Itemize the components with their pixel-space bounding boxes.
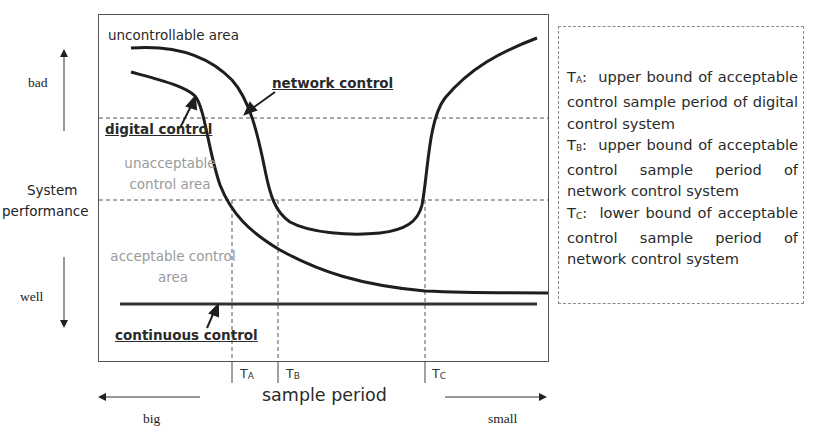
y-axis-well-label: well [20,290,43,304]
tick-label-tc: TC [432,368,446,381]
region-uncontrollable-label: uncontrollable area [108,29,239,43]
arrow-right-small [445,393,547,401]
digital-control-label: digital control [105,123,212,137]
region-unacceptable-label-line1: unacceptable [110,157,230,171]
y-axis-label-line1: System [27,184,77,198]
legend-text: TA: upper bound of acceptable control sa… [567,66,798,270]
arrow-left-big [98,393,200,401]
region-acceptable-label-line2: area [108,271,238,285]
y-axis-bad-label: bad [28,76,48,90]
arrow-down-well [60,257,68,328]
arrow-up-bad [60,49,68,131]
arrow-network-control [245,92,275,114]
continuous-control-label: continuous control [115,329,258,343]
region-acceptable-label-line1: acceptable control [108,250,238,264]
tick-label-ta: TA [240,368,254,381]
network-control-label: network control [272,77,393,91]
tick-label-tb: TB [286,368,300,381]
legend-entry-tb: TB: upper bound of acceptable control sa… [567,134,798,202]
legend-entry-tc: TC: lower bound of acceptable control sa… [567,202,798,270]
x-axis-small-label: small [488,412,517,426]
legend-entry-ta: TA: upper bound of acceptable control sa… [567,66,798,134]
arrow-continuous-control [207,305,218,328]
x-axis-label: sample period [262,387,387,405]
y-axis-label-line2: performance [2,205,88,219]
legend-box: TA: upper bound of acceptable control sa… [558,26,804,304]
x-axis-big-label: big [143,412,160,426]
region-unacceptable-label-line2: control area [110,178,230,192]
